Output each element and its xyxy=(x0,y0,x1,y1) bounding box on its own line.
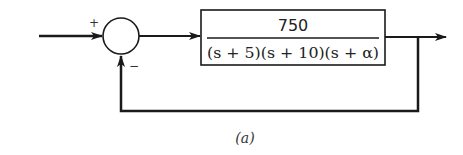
figure-caption: (a) xyxy=(235,130,254,146)
minus-sign: − xyxy=(129,59,139,73)
block-diagram: + − 750 (s + 5)(s + 10)(s + α) (a) xyxy=(0,0,463,155)
transfer-function-numerator: 750 xyxy=(278,16,309,35)
summing-junction xyxy=(103,18,139,54)
transfer-function-denominator: (s + 5)(s + 10)(s + α) xyxy=(207,45,379,61)
plus-sign: + xyxy=(89,16,99,30)
